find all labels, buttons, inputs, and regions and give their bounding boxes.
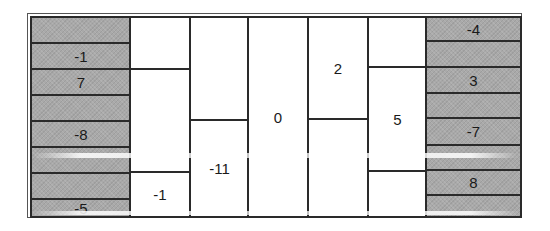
grid-cell <box>369 18 426 66</box>
grid-cell <box>32 94 130 120</box>
grid-cell <box>131 18 189 68</box>
grid-cell <box>427 92 520 117</box>
grid-cell: -1 <box>32 42 130 68</box>
grid-cell: -11 <box>191 119 248 216</box>
grid-cell <box>427 194 520 216</box>
grid-cell: -8 <box>32 120 130 146</box>
grid-cell: 8 <box>427 169 520 194</box>
grid-cell: -4 <box>427 18 520 40</box>
grid-cell: 2 <box>309 18 367 118</box>
grid-cell <box>131 68 189 171</box>
grid-cell <box>32 18 130 42</box>
column-3: -11 <box>189 18 248 216</box>
column-4: 0 <box>247 18 307 216</box>
grid-cell <box>369 170 426 216</box>
grid-cell <box>32 146 130 172</box>
grid-cell <box>427 144 520 169</box>
grid-frame: -1 7 -8 -5 -1 -11 0 2 5 -4 3 -7 <box>30 16 522 218</box>
column-6: 5 <box>367 18 426 216</box>
grid-cell: -7 <box>427 117 520 144</box>
column-2: -1 <box>129 18 189 216</box>
grid-cell <box>427 40 520 66</box>
column-left-shaded: -1 7 -8 -5 <box>32 18 130 216</box>
grid-cell <box>191 18 248 119</box>
grid-cell: -5 <box>32 198 130 216</box>
column-right-shaded: -4 3 -7 8 <box>425 18 520 216</box>
grid-cell <box>309 118 367 216</box>
grid-cell <box>32 172 130 198</box>
grid-cell: 5 <box>369 66 426 170</box>
grid-cell: -1 <box>131 171 189 216</box>
grid-cell: 7 <box>32 68 130 94</box>
grid-cell: 0 <box>249 18 307 216</box>
column-5: 2 <box>307 18 367 216</box>
grid-cell: 3 <box>427 66 520 92</box>
